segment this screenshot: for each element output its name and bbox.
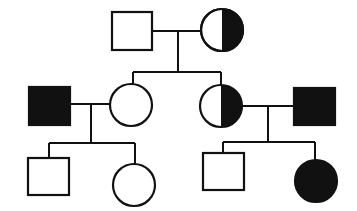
individual-I-2-female-carrier (201, 9, 243, 51)
individual-III-1-male-unaffected (28, 158, 69, 195)
individual-II-3-female-carrier (200, 85, 242, 127)
individual-III-3-male-unaffected (203, 153, 244, 190)
pedigree-chart (0, 0, 357, 211)
individual-II-1-male-affected (29, 87, 70, 125)
individual-III-4-female-affected (295, 160, 337, 202)
individual-II-4-male-affected (294, 88, 335, 125)
individual-II-2-female-unaffected (110, 84, 152, 126)
individual-III-2-female-unaffected (113, 164, 155, 206)
individual-I-1-male-unaffected (112, 12, 152, 50)
